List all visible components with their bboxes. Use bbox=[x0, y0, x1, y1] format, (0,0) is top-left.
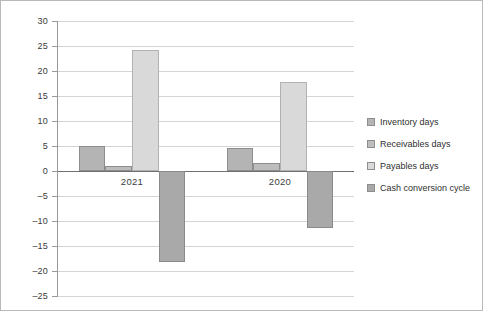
y-axis-tick-label: –15 bbox=[8, 242, 48, 251]
y-axis-tick bbox=[52, 271, 58, 272]
legend-item-label: Inventory days bbox=[380, 117, 439, 127]
x-axis-category-label: 2020 bbox=[206, 177, 354, 187]
chart-legend: Inventory daysReceivables daysPayables d… bbox=[367, 111, 479, 199]
y-axis-tick bbox=[52, 171, 58, 172]
legend-swatch-icon bbox=[367, 140, 375, 148]
y-axis-tick bbox=[52, 121, 58, 122]
gridline bbox=[58, 296, 354, 297]
y-axis-tick-label: 20 bbox=[8, 67, 48, 76]
y-axis-tick-label: 5 bbox=[8, 142, 48, 151]
gridline bbox=[58, 96, 354, 97]
chart-container: 302520151050–5–10–15–20–25 20212020 Inve… bbox=[0, 0, 483, 311]
y-axis-tick bbox=[52, 221, 58, 222]
bar-2020-receivables-days bbox=[253, 163, 280, 171]
y-axis-tick bbox=[52, 21, 58, 22]
y-axis-tick-label: 0 bbox=[8, 167, 48, 176]
y-axis-tick bbox=[52, 96, 58, 97]
legend-swatch-icon bbox=[367, 118, 375, 126]
legend-item-payables-days[interactable]: Payables days bbox=[367, 155, 479, 177]
x-axis-category-label: 2021 bbox=[58, 177, 206, 187]
y-axis-tick-label: 30 bbox=[8, 17, 48, 26]
legend-item-inventory-days[interactable]: Inventory days bbox=[367, 111, 479, 133]
y-axis-tick-label: 10 bbox=[8, 117, 48, 126]
legend-swatch-icon bbox=[367, 162, 375, 170]
y-axis-tick-label: –25 bbox=[8, 292, 48, 301]
gridline bbox=[58, 46, 354, 47]
gridline bbox=[58, 271, 354, 272]
gridline bbox=[58, 246, 354, 247]
bar-2021-payables-days bbox=[132, 50, 159, 172]
y-axis-tick bbox=[52, 296, 58, 297]
y-axis-tick-label: 25 bbox=[8, 42, 48, 51]
legend-item-label: Payables days bbox=[380, 161, 439, 171]
legend-item-label: Cash conversion cycle bbox=[380, 183, 470, 193]
y-axis-tick-label: 15 bbox=[8, 92, 48, 101]
gridline bbox=[58, 121, 354, 122]
y-axis-tick bbox=[52, 246, 58, 247]
y-axis-tick-label: –20 bbox=[8, 267, 48, 276]
gridline bbox=[58, 71, 354, 72]
legend-swatch-icon bbox=[367, 184, 375, 192]
y-axis-tick-label: –10 bbox=[8, 217, 48, 226]
y-axis-tick-label: –5 bbox=[8, 192, 48, 201]
y-axis-tick bbox=[52, 71, 58, 72]
y-axis-labels: 302520151050–5–10–15–20–25 bbox=[1, 1, 48, 311]
y-axis-tick bbox=[52, 196, 58, 197]
legend-item-label: Receivables days bbox=[380, 139, 451, 149]
legend-item-receivables-days[interactable]: Receivables days bbox=[367, 133, 479, 155]
bar-2020-payables-days bbox=[280, 82, 307, 171]
legend-item-cash-conversion-cycle[interactable]: Cash conversion cycle bbox=[367, 177, 479, 199]
bar-2021-receivables-days bbox=[105, 166, 132, 171]
bar-2020-inventory-days bbox=[227, 148, 254, 171]
y-axis-tick bbox=[52, 146, 58, 147]
bar-2021-inventory-days bbox=[79, 146, 106, 171]
plot-area: 20212020 bbox=[58, 21, 354, 296]
y-axis-tick bbox=[52, 46, 58, 47]
gridline bbox=[58, 21, 354, 22]
